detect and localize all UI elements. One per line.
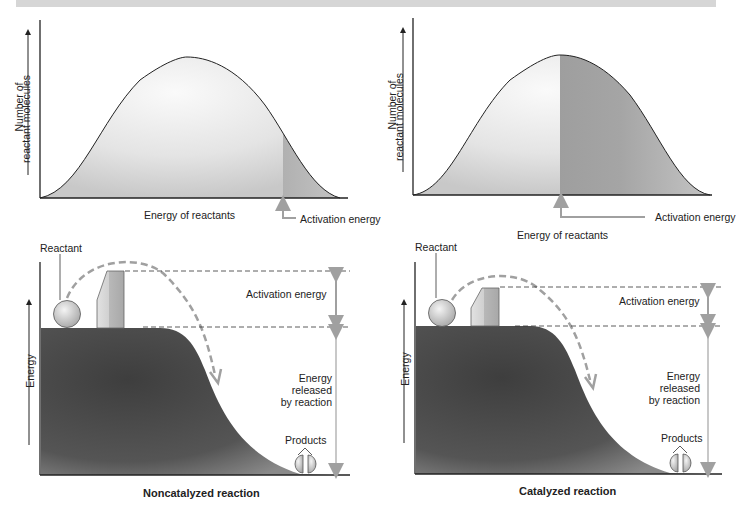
reaction-path-arrowhead — [210, 369, 221, 383]
product-half-right — [683, 454, 691, 472]
energy-released-line1: Energy — [272, 372, 332, 384]
y-axis-label-line2: reactant molecules — [20, 69, 32, 169]
product-half-left — [295, 455, 303, 473]
reactant-label: Reactant — [415, 241, 457, 253]
activation-energy-label: Activation energy — [619, 295, 700, 307]
reactant-ball — [54, 301, 81, 328]
activation-barrier — [471, 288, 499, 326]
products-label: Products — [285, 434, 326, 446]
energy-released-line3: by reaction — [272, 396, 332, 408]
caption-catalyzed: Catalyzed reaction — [519, 485, 616, 497]
top-right-distribution-chart — [403, 18, 712, 217]
activation-energy-label: Activation energy — [300, 213, 381, 225]
energy-released-line2: released — [272, 384, 332, 396]
energy-released-line1: Energy — [640, 370, 700, 382]
reaction-path-arrowhead — [585, 374, 596, 388]
reactant-label: Reactant — [40, 242, 82, 254]
y-axis-label-line2: reactant molecules — [393, 67, 405, 167]
x-axis-label: Energy of reactants — [144, 209, 235, 221]
activation-energy-label: Activation energy — [246, 288, 327, 300]
caption-noncatalyzed: Noncatalyzed reaction — [143, 487, 260, 499]
y-axis-label: Energy — [24, 351, 36, 391]
top-left-distribution-chart — [28, 20, 348, 218]
activation-energy-label: Activation energy — [655, 211, 736, 223]
y-axis-label: Energy — [399, 349, 411, 389]
product-half-right — [308, 455, 316, 473]
products-label: Products — [661, 432, 702, 444]
energy-released-line3: by reaction — [640, 394, 700, 406]
energy-released-label: Energy released by reaction — [640, 370, 700, 406]
energy-released-label: Energy released by reaction — [272, 372, 332, 408]
diagram-canvas — [0, 0, 741, 506]
reactant-ball — [429, 300, 456, 327]
products-bracket — [298, 448, 312, 455]
energy-released-line2: released — [640, 382, 700, 394]
activation-barrier — [97, 271, 124, 328]
product-half-left — [670, 454, 678, 472]
products-bracket — [673, 446, 687, 453]
x-axis-label: Energy of reactants — [517, 229, 608, 241]
